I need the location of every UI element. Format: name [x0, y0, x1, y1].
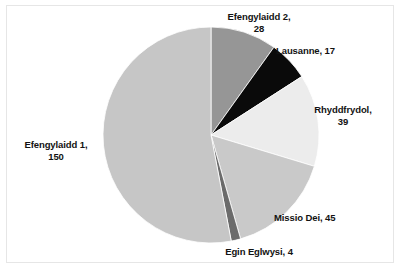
pie-slice-group — [103, 27, 319, 243]
pie-chart-figure: Efengylaidd 2, 28 Lausanne, 17 Rhyddfryd… — [0, 0, 401, 277]
pie-label-lausanne: Lausanne, 17 — [276, 45, 372, 57]
pie-label-missio-dei: Missio Dei, 45 — [274, 212, 378, 224]
pie-label-efengylaidd-1: Efengylaidd 1, 150 — [8, 139, 104, 162]
pie-label-egin-eglwysi: Egin Eglwysi, 4 — [194, 246, 324, 258]
pie-label-rhyddfrydol: Rhyddfrydol, 39 — [300, 104, 386, 127]
pie-label-efengylaidd-2: Efengylaidd 2, 28 — [211, 11, 307, 34]
